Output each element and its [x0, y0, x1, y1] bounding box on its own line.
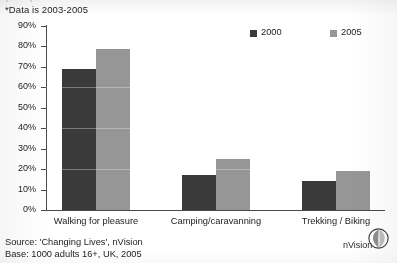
y-axis-line — [46, 25, 47, 211]
y-axis-tick — [41, 149, 47, 150]
y-axis-tick-label: 50% — [2, 102, 36, 112]
x-axis-label-1: Walking for pleasure — [54, 216, 138, 226]
y-axis-tick — [41, 128, 47, 129]
footer-base-line: Base: 1000 adults 16+, UK, 2005 — [5, 248, 143, 260]
y-axis-tick-label: 60% — [2, 81, 36, 91]
y-axis-tick — [41, 67, 47, 68]
y-axis-tick-label: 0% — [2, 204, 36, 214]
y-axis-tick-label: 80% — [2, 40, 36, 50]
footer-source-block: Source: 'Changing Lives', nVision Base: … — [5, 236, 143, 260]
bar-2005-2 — [216, 159, 250, 210]
legend-swatch-2000 — [250, 30, 257, 37]
y-axis-tick — [41, 46, 47, 47]
bar-2005-1 — [96, 49, 130, 211]
chart-plot-area: 0%10%20%30%40%50%60%70%80%90% Walking fo… — [0, 0, 397, 263]
y-axis-tick — [41, 108, 47, 109]
y-axis-tick-label: 70% — [2, 61, 36, 71]
legend-label-2005: 2005 — [341, 27, 362, 37]
bar-2000-2 — [182, 175, 216, 210]
y-axis-tick — [41, 190, 47, 191]
y-axis-tick — [41, 169, 47, 170]
y-axis-tick-label: 90% — [2, 20, 36, 30]
bar-2000-3 — [302, 181, 336, 210]
x-axis-line — [46, 210, 385, 211]
legend-label-2000: 2000 — [261, 27, 282, 37]
legend-swatch-2005 — [330, 30, 337, 37]
bar-2000-1 — [62, 69, 96, 210]
y-axis-tick — [41, 87, 47, 88]
footer-source-line: Source: 'Changing Lives', nVision — [5, 236, 143, 248]
y-axis-tick-label: 20% — [2, 163, 36, 173]
y-axis-tick-label: 40% — [2, 122, 36, 132]
y-axis-tick-label: 30% — [2, 143, 36, 153]
y-axis-tick-label: 10% — [2, 184, 36, 194]
x-axis-label-2: Camping/caravanning — [171, 216, 261, 226]
bar-2005-3 — [336, 171, 370, 210]
y-axis-tick — [41, 26, 47, 27]
nvision-leaf-logo-icon — [368, 228, 389, 249]
y-axis-tick — [41, 210, 47, 211]
x-axis-label-3: Trekking / Biking — [302, 216, 370, 226]
